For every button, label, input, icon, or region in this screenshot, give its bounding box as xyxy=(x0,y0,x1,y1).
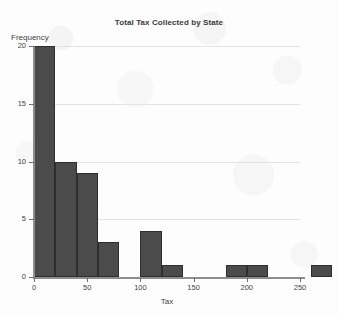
histogram-bar xyxy=(77,173,98,277)
x-tick-mark xyxy=(247,278,248,282)
gridline xyxy=(34,104,300,105)
histogram-bar xyxy=(140,231,161,277)
y-tick-mark xyxy=(29,46,34,47)
x-tick-mark xyxy=(87,278,88,282)
x-tick-label: 200 xyxy=(235,283,259,292)
histogram-bar xyxy=(226,265,247,277)
x-tick-label: 150 xyxy=(182,283,206,292)
y-tick-mark xyxy=(29,104,34,105)
gridline xyxy=(34,46,300,47)
histogram-bar xyxy=(247,265,268,277)
histogram-bar xyxy=(311,265,332,277)
y-tick-mark xyxy=(29,219,34,220)
x-axis-title: Tax xyxy=(34,297,300,306)
x-tick-label: 50 xyxy=(75,283,99,292)
y-tick-mark xyxy=(29,162,34,163)
histogram-bar xyxy=(55,162,76,278)
y-tick-label: 15 xyxy=(6,99,26,108)
x-tick-mark xyxy=(34,278,35,282)
x-tick-label: 250 xyxy=(288,283,312,292)
histogram-figure: Total Tax Collected by State Frequency T… xyxy=(0,0,338,318)
x-tick-label: 0 xyxy=(22,283,46,292)
y-tick-label: 10 xyxy=(6,157,26,166)
histogram-bar xyxy=(162,265,183,277)
histogram-bar xyxy=(98,242,119,277)
y-tick-label: 0 xyxy=(6,272,26,281)
x-tick-label: 100 xyxy=(128,283,152,292)
chart-title: Total Tax Collected by State xyxy=(0,18,338,27)
y-tick-label: 5 xyxy=(6,214,26,223)
plot-area xyxy=(34,46,300,277)
y-tick-label: 20 xyxy=(6,41,26,50)
x-axis-line xyxy=(33,277,305,279)
x-tick-mark xyxy=(194,278,195,282)
x-tick-mark xyxy=(300,278,301,282)
histogram-bar xyxy=(34,46,55,277)
x-tick-mark xyxy=(140,278,141,282)
